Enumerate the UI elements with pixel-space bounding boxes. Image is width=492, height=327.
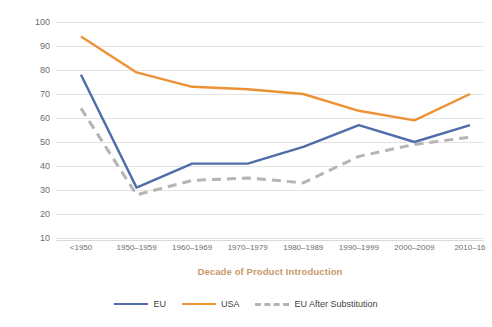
legend-label: EU	[153, 299, 166, 309]
plot-area: 102030405060708090100	[56, 16, 484, 240]
x-axis-tick-labels: <19501950–19591960–19691970–19791980–198…	[56, 243, 484, 259]
legend-swatch-icon	[182, 303, 216, 305]
x-axis-line	[56, 240, 484, 241]
series-lines	[56, 16, 484, 240]
x-axis-tick-label: 1970–1979	[228, 243, 268, 252]
x-axis-tick-label: <1950	[70, 243, 92, 252]
x-axis-tick-label: 1980–1989	[283, 243, 323, 252]
y-axis-tick-label: 90	[40, 41, 50, 51]
y-axis-tick-label: 30	[40, 185, 50, 195]
y-axis-tick-label: 40	[40, 161, 50, 171]
chart-legend: EUUSAEU After Substitution	[0, 299, 492, 309]
series-line-eu-after-substitution	[81, 108, 470, 194]
x-axis-tick-label: 1990–1999	[339, 243, 379, 252]
legend-label: EU After Substitution	[294, 299, 377, 309]
x-axis-tick-label: 1950–1959	[117, 243, 157, 252]
y-axis-tick-label: 100	[35, 17, 50, 27]
legend-label: USA	[221, 299, 240, 309]
x-axis-tick-label: 2010–16	[454, 243, 485, 252]
legend-item-eu[interactable]: EU	[114, 299, 166, 309]
legend-item-eu-after-substitution[interactable]: EU After Substitution	[255, 299, 377, 309]
y-axis-tick-label: 50	[40, 137, 50, 147]
chart-container: % of Active Ingredients Introduced 10203…	[0, 0, 492, 327]
y-axis-tick-label: 20	[40, 209, 50, 219]
x-axis-tick-label: 2000–2009	[394, 243, 434, 252]
y-axis-tick-label: 70	[40, 89, 50, 99]
legend-swatch-icon	[114, 303, 148, 305]
y-axis-tick-label: 60	[40, 113, 50, 123]
series-line-usa	[81, 36, 470, 120]
legend-swatch-icon	[255, 303, 289, 306]
x-axis-tick-label: 1960–1969	[172, 243, 212, 252]
y-axis-tick-label: 10	[40, 233, 50, 243]
x-axis-title: Decade of Product Introduction	[55, 266, 485, 277]
legend-item-usa[interactable]: USA	[182, 299, 240, 309]
y-axis-tick-label: 80	[40, 65, 50, 75]
